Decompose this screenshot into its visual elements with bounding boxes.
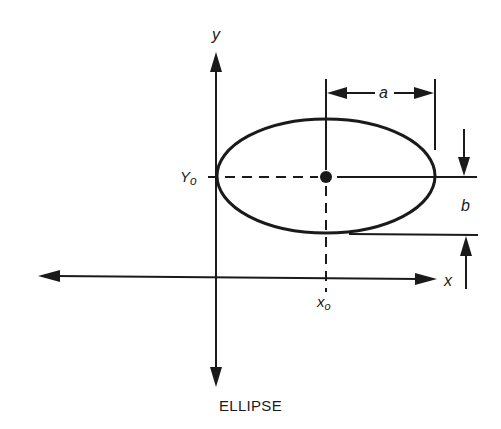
- center-y-label-sub: o: [190, 174, 197, 188]
- center-x-label-sub: o: [325, 300, 331, 312]
- x-axis: [38, 270, 437, 285]
- semi-major-label: a: [379, 84, 388, 101]
- center-point: [320, 171, 332, 183]
- center-y-label: Yo: [180, 168, 197, 188]
- b-down-arrow-icon: [458, 157, 470, 176]
- semi-minor-label: b: [461, 197, 470, 214]
- center-x-label: xo: [316, 293, 331, 312]
- b-up-arrow-icon: [460, 236, 472, 256]
- x-axis-label: x: [443, 272, 453, 289]
- ellipse-diagram: y x Yo xo a b: [0, 0, 501, 429]
- y-axis: [210, 52, 222, 387]
- diagram-title: ELLIPSE: [0, 397, 501, 414]
- y-axis-up-arrow-icon: [210, 52, 222, 72]
- center-guides: [208, 177, 326, 292]
- a-right-arrow-icon: [414, 87, 434, 99]
- a-left-arrow-icon: [327, 87, 347, 99]
- y-axis-down-arrow-icon: [210, 367, 222, 387]
- y-axis-label: y: [211, 26, 221, 43]
- x-axis-right-arrow-icon: [415, 273, 437, 285]
- x-axis-left-arrow-icon: [38, 270, 60, 282]
